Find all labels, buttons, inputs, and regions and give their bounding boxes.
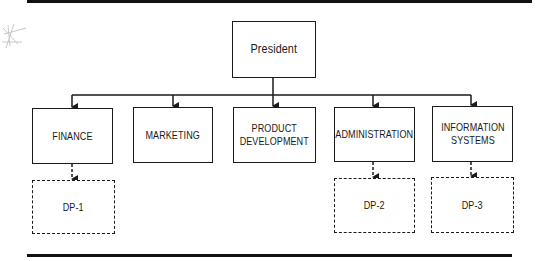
administration-label: ADMINISTRATION [336,128,414,141]
dp-1-box: DP-1 [32,180,115,234]
information-systems-box: INFORMATION SYSTEMS [432,106,513,162]
information-systems-label: INFORMATION SYSTEMS [441,121,504,147]
product-development-label: PRODUCT DEVELOPMENT [240,122,309,148]
dp-3-box: DP-3 [431,177,514,233]
dp-2-box: DP-2 [334,178,415,233]
dp-2-label: DP-2 [364,199,385,212]
finance-label: FINANCE [52,130,92,143]
marketing-box: MARKETING [133,107,213,163]
product-development-box: PRODUCT DEVELOPMENT [233,107,316,163]
administration-box: ADMINISTRATION [334,107,415,162]
marketing-label: MARKETING [146,129,200,142]
president-box: President [232,21,316,78]
dp-3-label: DP-3 [462,199,483,212]
dp-1-label: DP-1 [63,201,84,214]
finance-box: FINANCE [32,108,113,164]
president-label: President [251,43,297,56]
